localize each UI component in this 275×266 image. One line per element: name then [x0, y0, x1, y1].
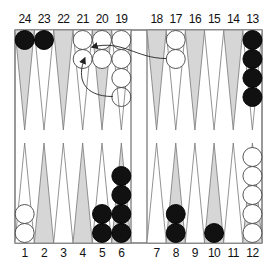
checker-white-point-20 [93, 50, 112, 69]
checker-black-point-13 [243, 50, 262, 69]
checker-black-point-13 [243, 31, 262, 50]
backgammon-board: 242322212019181716151413123456789101112 [0, 0, 275, 266]
checker-white-point-19 [112, 31, 131, 50]
point-2-triangle [34, 143, 53, 243]
point-7-triangle [147, 143, 166, 243]
checker-black-point-6 [112, 167, 131, 186]
point-4-triangle [73, 143, 92, 243]
point-label-4: 4 [73, 246, 93, 260]
point-label-14: 14 [223, 12, 243, 26]
checker-white-point-19 [112, 50, 131, 69]
checker-black-point-10 [205, 224, 224, 243]
point-label-10: 10 [204, 246, 224, 260]
checker-white-point-17 [166, 50, 185, 69]
checker-white-point-12 [243, 224, 262, 243]
checker-white-point-19 [112, 69, 131, 88]
point-label-2: 2 [34, 246, 54, 260]
point-9-triangle [185, 143, 204, 243]
checker-black-point-24 [15, 31, 34, 50]
point-15-triangle [204, 30, 223, 130]
point-label-8: 8 [166, 246, 186, 260]
point-label-18: 18 [147, 12, 167, 26]
checker-black-point-5 [93, 205, 112, 224]
point-label-11: 11 [223, 246, 243, 260]
checker-black-point-6 [112, 224, 131, 243]
point-label-22: 22 [53, 12, 73, 26]
checker-black-point-6 [112, 186, 131, 205]
point-11-triangle [224, 143, 243, 243]
checker-black-point-8 [166, 224, 185, 243]
checker-black-point-6 [112, 205, 131, 224]
point-label-15: 15 [204, 12, 224, 26]
point-label-9: 9 [185, 246, 205, 260]
checker-white-point-12 [243, 167, 262, 186]
point-label-17: 17 [166, 12, 186, 26]
checker-black-point-23 [35, 31, 54, 50]
point-label-7: 7 [147, 246, 167, 260]
checker-black-point-13 [243, 88, 262, 107]
point-label-13: 13 [242, 12, 262, 26]
point-label-1: 1 [15, 246, 35, 260]
checker-white-point-21 [73, 31, 92, 50]
checker-white-point-1 [15, 205, 34, 224]
checker-white-point-12 [243, 186, 262, 205]
point-label-19: 19 [111, 12, 131, 26]
checker-white-point-17 [166, 31, 185, 50]
board-svg [0, 0, 275, 266]
checker-white-point-19 [112, 88, 131, 107]
point-label-16: 16 [185, 12, 205, 26]
point-label-5: 5 [92, 246, 112, 260]
checker-black-point-5 [93, 224, 112, 243]
point-3-triangle [54, 143, 73, 243]
point-label-3: 3 [53, 246, 73, 260]
point-label-23: 23 [34, 12, 54, 26]
point-label-6: 6 [111, 246, 131, 260]
checker-white-point-12 [243, 148, 262, 167]
point-14-triangle [224, 30, 243, 130]
point-label-24: 24 [15, 12, 35, 26]
checker-black-point-8 [166, 205, 185, 224]
point-22-triangle [54, 30, 73, 130]
board-frame [15, 30, 262, 243]
checker-black-point-13 [243, 69, 262, 88]
point-16-triangle [185, 30, 204, 130]
point-label-21: 21 [73, 12, 93, 26]
point-label-20: 20 [92, 12, 112, 26]
point-18-triangle [147, 30, 166, 130]
checker-white-point-12 [243, 205, 262, 224]
checker-white-point-1 [15, 224, 34, 243]
point-label-12: 12 [242, 246, 262, 260]
